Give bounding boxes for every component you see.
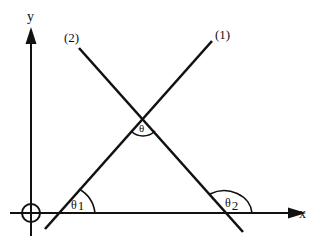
angle-theta-label: θ bbox=[139, 122, 144, 134]
line-2-label: (2) bbox=[64, 30, 79, 45]
angle-theta2-subscript: 2 bbox=[232, 198, 239, 213]
x-axis-label: x bbox=[299, 206, 306, 221]
y-axis-arrow-icon bbox=[26, 27, 37, 44]
angle-theta1-symbol: θ bbox=[71, 198, 77, 212]
angle-theta1-subscript: 1 bbox=[78, 198, 85, 213]
angle-theta2-label: θ2 bbox=[225, 196, 238, 213]
diagram-svg: y x (2) (1) θ θ1 θ2 bbox=[0, 0, 320, 248]
angle-theta2-symbol: θ bbox=[225, 196, 231, 210]
y-axis-label: y bbox=[27, 9, 34, 24]
line-1-label: (1) bbox=[215, 27, 230, 42]
line-2 bbox=[79, 48, 243, 232]
diagram-canvas: y x (2) (1) θ θ1 θ2 bbox=[0, 0, 320, 248]
angle-theta1-label: θ1 bbox=[71, 198, 84, 213]
